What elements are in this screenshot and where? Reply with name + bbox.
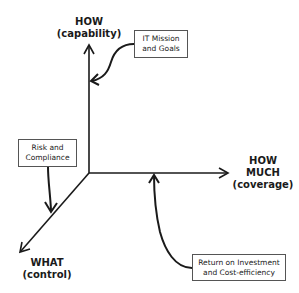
horizontal-axis-title-line2: MUCH [232, 167, 294, 179]
horizontal-axis-title-line1: HOW [232, 155, 294, 167]
risk-arrow [48, 167, 51, 210]
roi-box: Return on Investment and Cost-efficiency [192, 254, 286, 281]
horizontal-axis-label: HOW MUCH (coverage) [232, 155, 294, 191]
diagonal-axis-title: WHAT [16, 257, 78, 269]
horizontal-axis-subtitle: (coverage) [232, 179, 294, 191]
roi-line1: Return on Investment [193, 258, 285, 268]
roi-arrow [154, 175, 192, 268]
vertical-axis-label: HOW (capability) [54, 16, 124, 40]
diagonal-axis-subtitle: (control) [16, 269, 78, 281]
it-mission-arrow [92, 44, 134, 81]
vertical-axis-subtitle: (capability) [54, 28, 124, 40]
it-mission-box: IT Mission and Goals [134, 30, 188, 58]
risk-line1: Risk and [19, 143, 76, 153]
diagonal-axis-label: WHAT (control) [16, 257, 78, 281]
it-mission-line2: and Goals [135, 44, 187, 54]
risk-line2: Compliance [19, 153, 76, 163]
roi-line2: and Cost-efficiency [193, 268, 285, 278]
vertical-axis-title: HOW [54, 16, 124, 28]
diagonal-axis [21, 173, 89, 251]
risk-compliance-box: Risk and Compliance [18, 139, 77, 167]
it-mission-line1: IT Mission [135, 34, 187, 44]
